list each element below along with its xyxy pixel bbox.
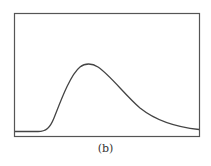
figure-caption: (b): [0, 142, 211, 155]
curve: [15, 64, 199, 132]
